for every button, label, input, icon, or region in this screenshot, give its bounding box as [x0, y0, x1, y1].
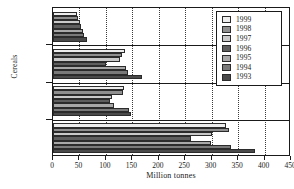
y-axis-title: Cereals — [10, 37, 19, 97]
legend-label: 1993 — [236, 73, 251, 81]
bar — [53, 112, 131, 116]
x-axis-tick — [158, 156, 159, 160]
y-axis-tick — [46, 119, 52, 120]
x-axis-tick — [52, 156, 53, 160]
legend-item[interactable]: 1996 — [222, 44, 277, 54]
legend-swatch — [222, 45, 231, 52]
legend-swatch — [222, 16, 231, 23]
bar — [53, 149, 255, 153]
x-axis-tick — [78, 156, 79, 160]
x-axis-tick — [131, 156, 132, 160]
legend-swatch — [222, 35, 231, 42]
legend-label: 1999 — [236, 16, 251, 24]
y-axis-tick — [46, 44, 52, 45]
bar-chart: Cereals RiceCoarsegrainsWheatTotalcereal… — [0, 0, 294, 189]
x-axis-tick — [237, 156, 238, 160]
x-axis-tick — [290, 156, 291, 160]
bar — [53, 37, 87, 41]
legend-swatch — [222, 64, 231, 71]
legend: 1999199819971996199519941993 — [216, 11, 282, 86]
legend-label: 1998 — [236, 25, 251, 33]
legend-item[interactable]: 1994 — [222, 63, 277, 73]
x-axis-tick — [211, 156, 212, 160]
legend-swatch — [222, 55, 231, 62]
x-axis-tick — [264, 156, 265, 160]
legend-swatch — [222, 74, 231, 81]
legend-label: 1997 — [236, 35, 251, 43]
category-separator — [53, 120, 289, 121]
legend-item[interactable]: 1993 — [222, 73, 277, 83]
x-axis-tick — [184, 156, 185, 160]
x-axis-tick — [105, 156, 106, 160]
legend-label: 1996 — [236, 45, 251, 53]
legend-item[interactable]: 1997 — [222, 34, 277, 44]
legend-label: 1994 — [236, 64, 251, 72]
bar — [53, 75, 142, 79]
legend-item[interactable]: 1995 — [222, 53, 277, 63]
bar-group — [53, 120, 289, 157]
bar-group — [53, 83, 289, 120]
y-axis-tick — [46, 82, 52, 83]
legend-item[interactable]: 1999 — [222, 15, 277, 25]
x-axis-title: Million tonnes — [52, 171, 290, 180]
legend-item[interactable]: 1998 — [222, 25, 277, 35]
legend-label: 1995 — [236, 54, 251, 62]
legend-swatch — [222, 26, 231, 33]
x-axis-label: 450 — [275, 161, 294, 170]
